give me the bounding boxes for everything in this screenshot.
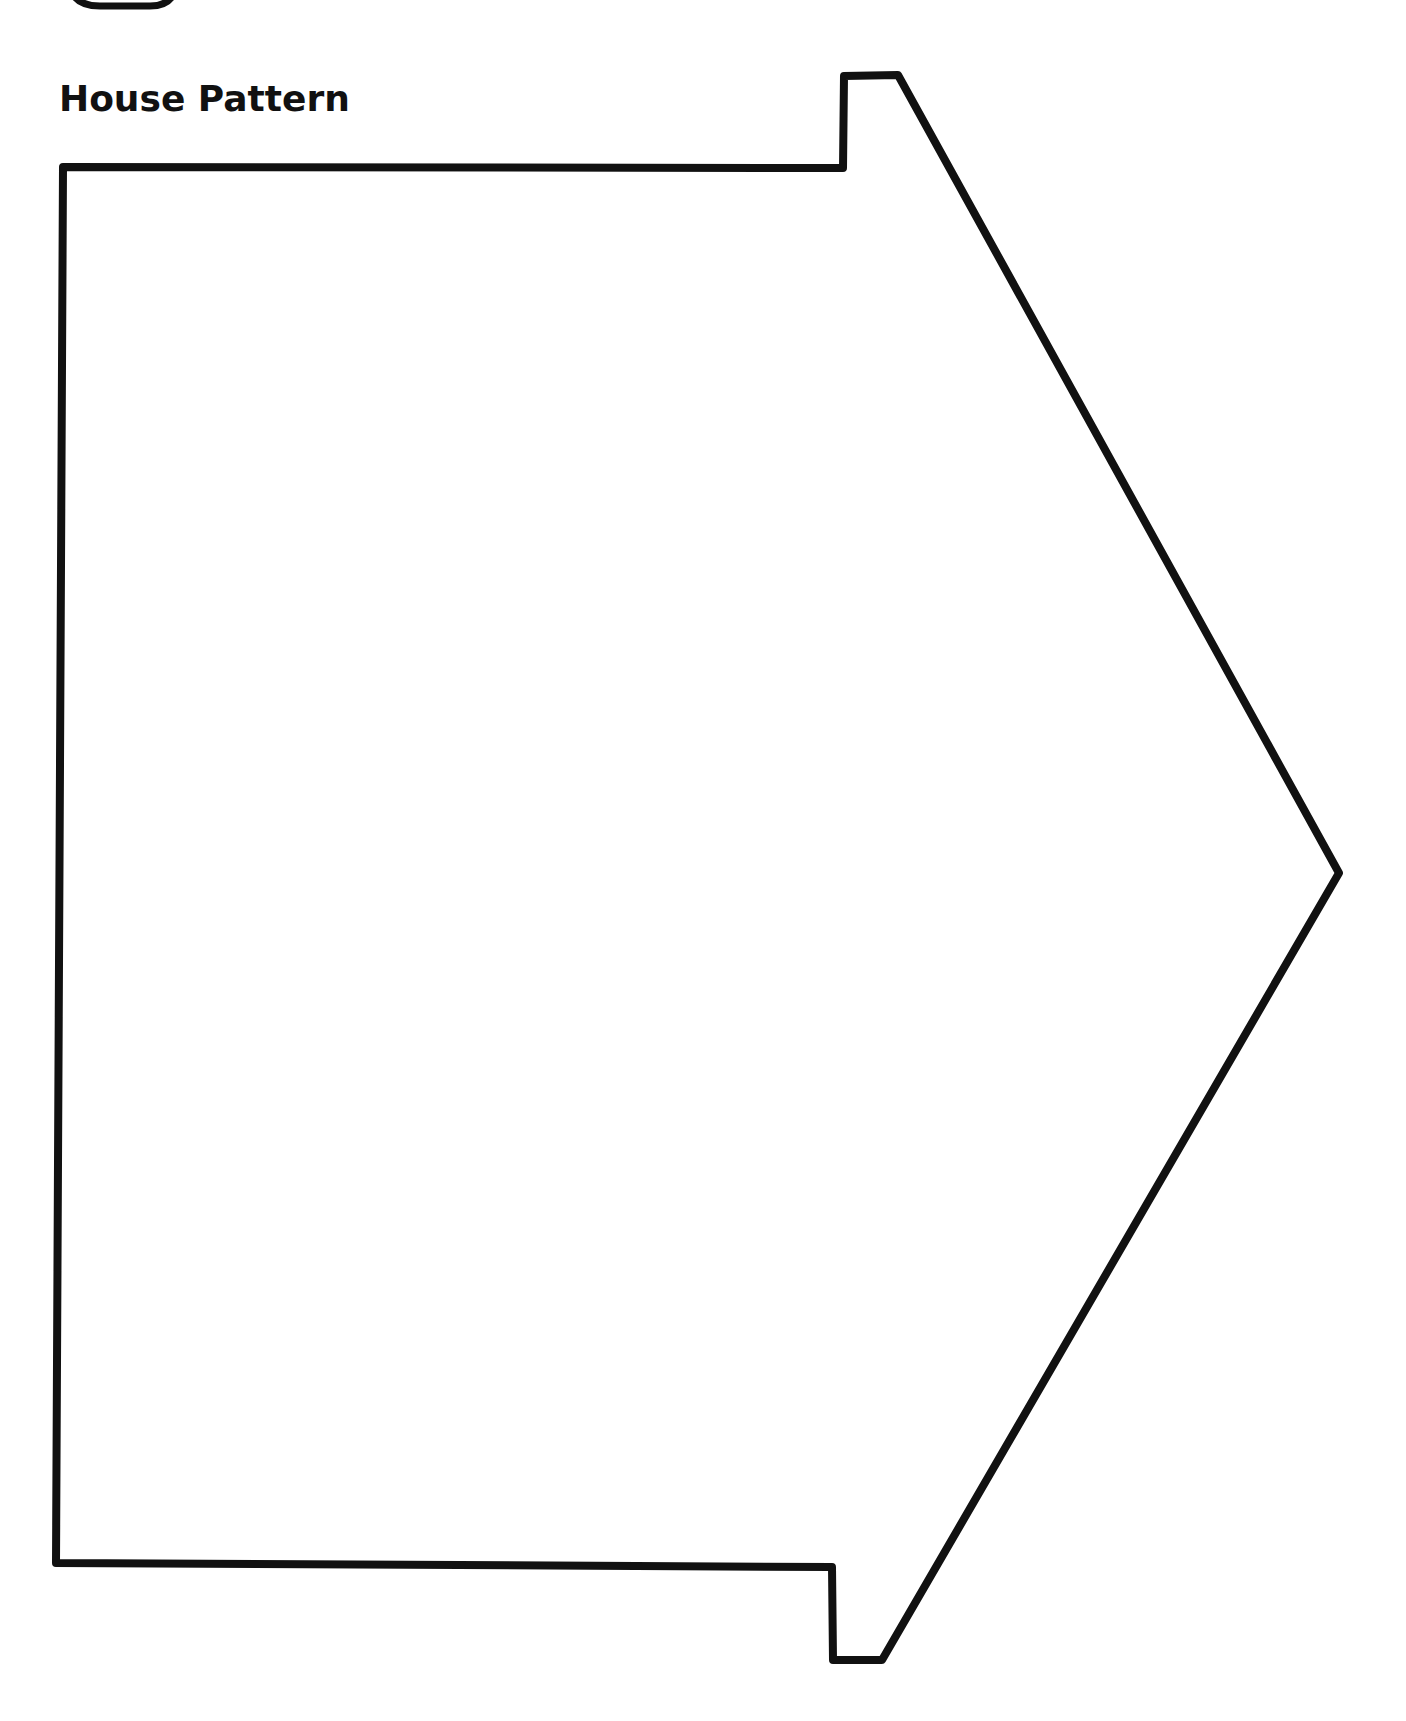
house-pattern-outline [56,75,1339,1660]
page-canvas [0,0,1406,1721]
top-rounded-tab-fragment [70,0,176,6]
page-title: House Pattern [59,78,350,119]
